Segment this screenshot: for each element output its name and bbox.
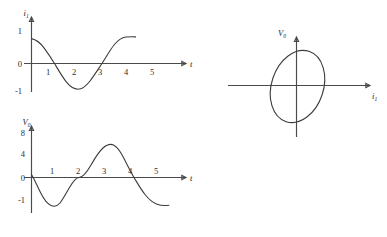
chart-voltage-waveform: 8 4 0 -1 1 2 3 4 5 V0 t (18, 117, 193, 213)
x-axis-label-1: t (190, 59, 193, 69)
curve-voltage-current-loop (261, 43, 333, 129)
ytick-label-2-2: 0 (21, 173, 25, 183)
x-axis-label-3: i1 (372, 91, 377, 102)
xtick-label-1-1: 2 (72, 67, 76, 77)
xtick-label-2-4: 5 (154, 166, 158, 176)
x-axis-label-2: t (190, 173, 193, 183)
ytick-label-1-2: -1 (15, 86, 22, 96)
three-panel-waveform-figure: 1 0 -1 1 2 3 4 5 i1 t 8 4 0 (0, 0, 387, 237)
xtick-label-2-0: 1 (50, 166, 54, 176)
figure-container: 1 0 -1 1 2 3 4 5 i1 t 8 4 0 (0, 0, 387, 237)
y-axis-label-2: V0 (23, 117, 31, 128)
ytick-label-2-1: 4 (21, 149, 26, 159)
ytick-label-2-0: 8 (21, 128, 25, 138)
xtick-label-1-4: 5 (150, 67, 154, 77)
y-axis-label-1: i1 (24, 8, 29, 19)
ytick-label-1-1: 0 (18, 59, 22, 69)
xtick-label-1-0: 1 (46, 67, 50, 77)
xtick-label-1-3: 4 (124, 67, 129, 77)
ytick-label-2-3: -1 (18, 195, 25, 205)
xtick-label-2-2: 3 (102, 166, 106, 176)
ytick-label-1-0: 1 (18, 26, 22, 36)
chart-current-waveform: 1 0 -1 1 2 3 4 5 i1 t (15, 8, 193, 96)
chart-voltage-current-loop: V0 i1 (228, 28, 377, 137)
y-axis-label-3: V0 (278, 28, 286, 39)
xtick-label-2-1: 2 (76, 166, 80, 176)
